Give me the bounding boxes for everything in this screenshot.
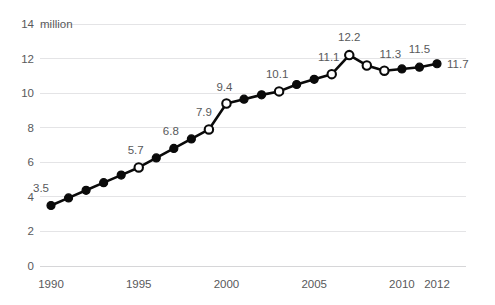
y-axis-tick-label: 2 [28,225,34,237]
y-axis-tick-label: 8 [28,122,34,134]
gridlines [40,24,466,266]
x-axis-tick-labels: 199019952000200520102012 [38,278,450,290]
data-series-line [51,55,437,205]
x-axis-tick-label: 2000 [214,278,240,290]
y-axis-tick-label: 10 [21,87,34,99]
data-point-marker-filled [65,194,73,202]
data-value-label: 7.9 [196,106,212,118]
data-point-marker-filled [258,91,266,99]
data-value-label: 10.1 [266,68,288,80]
data-point-markers [47,51,441,210]
data-point-marker-filled [170,144,178,152]
data-point-marker-filled [240,95,248,103]
data-point-marker-open [363,61,371,69]
data-point-marker-filled [415,63,423,71]
data-point-marker-filled [82,186,90,194]
data-value-labels: 3.55.76.87.99.410.111.112.211.311.511.7 [33,31,469,193]
data-value-label: 11.3 [380,48,402,60]
data-point-marker-filled [152,154,160,162]
data-point-marker-filled [100,179,108,187]
data-value-label: 9.4 [216,81,233,93]
data-point-marker-open [222,99,230,107]
data-value-label: 6.8 [163,125,179,137]
x-axis-tick-label: 2010 [389,278,415,290]
x-axis-tick-label: 1990 [38,278,64,290]
y-axis-tick-label: 12 [21,53,34,65]
data-point-marker-filled [187,135,195,143]
data-point-marker-filled [47,202,55,210]
y-axis-tick-label: 6 [28,156,34,168]
data-point-marker-filled [117,171,125,179]
y-axis-tick-label: 0 [28,260,34,272]
data-value-label: 11.7 [447,58,469,70]
data-point-marker-open [328,70,336,78]
data-point-marker-open [205,125,213,133]
data-value-label: 3.5 [33,182,49,194]
y-axis-tick-labels: 02468101214 [21,18,34,272]
data-value-label: 11.5 [409,43,431,55]
data-point-marker-open [135,163,143,171]
data-value-label: 12.2 [338,31,360,43]
data-point-marker-filled [293,81,301,89]
data-value-label: 5.7 [128,144,144,156]
data-point-marker-open [380,66,388,74]
y-axis-tick-label: 14 [21,18,34,30]
line-chart: 02468101214 199019952000200520102012 mil… [0,0,495,305]
x-axis-tick-label: 2005 [301,278,327,290]
x-axis-tick-label: 1995 [126,278,152,290]
x-axis-tick-label: 2012 [424,278,450,290]
data-point-marker-open [275,87,283,95]
data-point-marker-filled [433,60,441,68]
chart-canvas: 02468101214 199019952000200520102012 mil… [0,0,495,305]
data-value-label: 11.1 [318,51,340,63]
data-point-marker-filled [398,65,406,73]
y-axis-unit-label: million [40,18,73,30]
data-point-marker-open [345,51,353,59]
data-point-marker-filled [310,75,318,83]
